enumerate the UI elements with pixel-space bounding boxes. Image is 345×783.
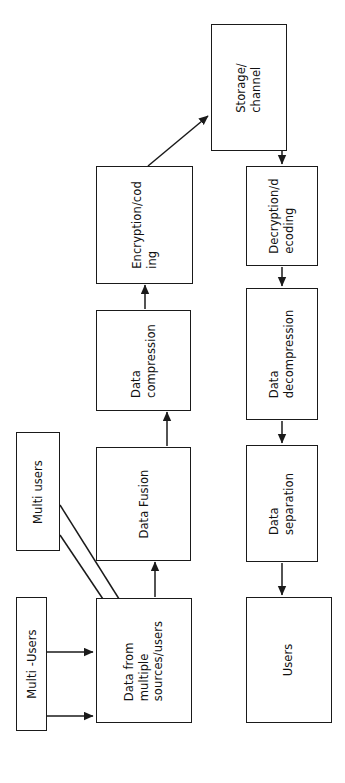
node-encryption-coding-labelwrap: Encryption/cod ing — [97, 167, 192, 283]
node-multi-users-lower[interactable]: Multi -Users — [16, 597, 47, 731]
node-decryption-decoding-label: Decryption/d ecoding — [267, 178, 296, 254]
node-data-separation-labelwrap: Data separation — [247, 446, 317, 561]
node-encryption-coding-label: Encryption/cod ing — [130, 181, 159, 269]
node-data-compression-labelwrap: Data compression — [97, 311, 190, 410]
node-multi-users-upper-label: Multi users — [31, 460, 46, 524]
node-multi-users-lower-label: Multi -Users — [24, 629, 39, 698]
node-data-decompression-labelwrap: Data decompression — [247, 289, 317, 419]
node-storage-channel-labelwrap: Storage/ channel — [212, 25, 286, 150]
node-data-from-multiple-sources[interactable]: Data from multiple sources/users — [96, 598, 192, 723]
node-encryption-coding[interactable]: Encryption/cod ing — [96, 166, 193, 284]
node-data-fusion-label: Data Fusion — [136, 470, 151, 539]
node-data-separation-label: Data separation — [267, 472, 296, 534]
node-data-compression-label: Data compression — [129, 323, 158, 397]
node-decryption-decoding[interactable]: Decryption/d ecoding — [246, 166, 318, 266]
node-users[interactable]: Users — [246, 597, 332, 723]
node-decryption-decoding-labelwrap: Decryption/d ecoding — [247, 167, 317, 265]
node-data-from-multiple-sources-label: Data from multiple sources/users — [122, 620, 166, 700]
node-data-from-multiple-sources-labelwrap: Data from multiple sources/users — [97, 599, 191, 722]
node-data-fusion[interactable]: Data Fusion — [96, 447, 191, 561]
edge-encryption-to-storage — [148, 116, 208, 166]
node-data-separation[interactable]: Data separation — [246, 445, 318, 562]
node-data-decompression[interactable]: Data decompression — [246, 288, 318, 420]
node-multi-users-lower-labelwrap: Multi -Users — [17, 598, 46, 730]
node-multi-users-upper[interactable]: Multi users — [16, 432, 60, 551]
node-users-labelwrap: Users — [247, 598, 331, 722]
node-data-fusion-labelwrap: Data Fusion — [97, 448, 190, 560]
node-users-label: Users — [282, 644, 297, 677]
node-storage-channel-label: Storage/ channel — [234, 63, 263, 113]
node-data-decompression-label: Data decompression — [267, 310, 296, 399]
node-data-compression[interactable]: Data compression — [96, 310, 191, 411]
node-storage-channel[interactable]: Storage/ channel — [211, 24, 287, 151]
node-multi-users-upper-labelwrap: Multi users — [17, 433, 59, 550]
flowchart-canvas: Storage/ channel Encryption/cod ing Data… — [0, 0, 345, 783]
